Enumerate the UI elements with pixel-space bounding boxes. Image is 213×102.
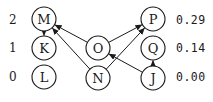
- left-axis-labels: 210: [9, 13, 17, 84]
- directed-graph-diagram: MKLONPQJ 210 0.290.140.00: [0, 0, 213, 102]
- edge-o-to-m: [55, 25, 87, 42]
- right-axis-labels: 0.290.140.00: [176, 13, 206, 84]
- node-label: M: [37, 12, 50, 27]
- left-level-label: 2: [9, 13, 17, 27]
- node-p: P: [141, 7, 165, 31]
- left-level-label: 1: [9, 41, 17, 55]
- node-n: N: [86, 66, 110, 90]
- edge-j-to-o: [109, 54, 143, 72]
- node-label: K: [39, 41, 49, 56]
- node-m: M: [32, 7, 56, 31]
- nodes-layer: MKLONPQJ: [32, 7, 165, 90]
- right-value-label: 0.29: [176, 13, 206, 27]
- edge-o-to-p: [109, 25, 142, 43]
- node-label: L: [40, 70, 49, 85]
- node-label: O: [93, 41, 104, 56]
- node-label: J: [148, 71, 155, 86]
- edge-n-to-m: [52, 28, 89, 69]
- right-value-label: 0.14: [176, 41, 206, 55]
- right-value-label: 0.00: [176, 70, 206, 84]
- node-k: K: [32, 36, 56, 60]
- node-label: P: [149, 12, 158, 27]
- node-j: J: [141, 66, 165, 90]
- node-q: Q: [141, 36, 165, 60]
- node-label: Q: [148, 41, 159, 56]
- node-o: O: [86, 36, 110, 60]
- node-label: N: [92, 71, 103, 86]
- node-l: L: [32, 65, 56, 89]
- left-level-label: 0: [9, 70, 17, 84]
